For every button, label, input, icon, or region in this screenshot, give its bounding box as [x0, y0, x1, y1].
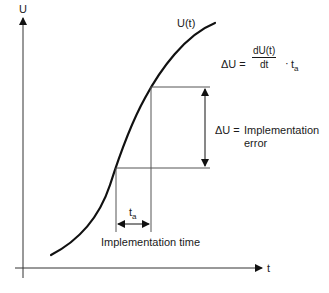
ta-symbol: ta — [129, 206, 137, 223]
ta-subscript: a — [132, 212, 136, 221]
delta-u-line2: error — [244, 137, 267, 149]
curve-label: U(t) — [177, 17, 195, 29]
x-axis-label: t — [267, 262, 270, 274]
implementation-time-label: Implementation time — [101, 236, 200, 248]
formula-numerator: dU(t) — [252, 45, 276, 58]
formula-times: · — [285, 57, 289, 69]
formula-factor: ta — [291, 58, 299, 75]
implementation-error-diagram: U t U(t) ΔU = dU(t) dt · ta ΔU = Impleme… — [0, 0, 329, 293]
delta-u-lhs: ΔU = — [215, 124, 240, 136]
formula-fraction: dU(t) dt — [252, 45, 276, 70]
formula-factor-subscript: a — [294, 64, 298, 73]
delta-u-line1: Implementation — [244, 124, 319, 136]
diagram-canvas — [0, 0, 329, 293]
formula-lhs: ΔU = — [221, 58, 246, 70]
formula-denominator: dt — [260, 58, 268, 70]
y-axis-label: U — [19, 3, 27, 15]
